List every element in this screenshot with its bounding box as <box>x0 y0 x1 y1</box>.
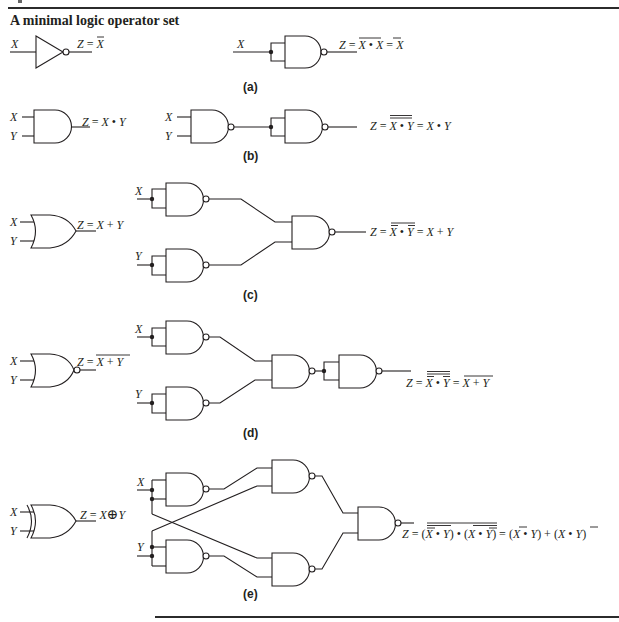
input-x-label: X <box>136 475 145 489</box>
xor-expression: Z = X⊕Y <box>80 507 127 522</box>
input-y-label: Y <box>165 129 173 143</box>
xor-gate: X Y Z = X⊕Y <box>9 505 127 538</box>
input-x-label: X <box>134 184 143 198</box>
nor-expression: Z = X + Y <box>77 355 125 369</box>
input-y-label: Y <box>135 249 143 263</box>
input-y-label: Y <box>10 373 18 387</box>
panel-a: X Z = X X Z = X • X = X <box>10 36 404 68</box>
input-x-label: X <box>164 110 173 124</box>
input-x-label: X <box>9 505 18 519</box>
and-expression: Z = X • Y <box>82 115 127 129</box>
not-expression: Z = X <box>77 37 104 51</box>
input-y-label: Y <box>135 387 143 401</box>
panel-e: X Y Z = X⊕Y X Y <box>9 460 598 586</box>
not-gate: X Z = X <box>10 36 104 68</box>
panel-d: X Y Z = X + Y X Y <box>9 321 493 420</box>
panel-b: X Y Z = X • Y X Y Z = X • Y = X • Y <box>9 110 452 143</box>
nand-nor-expression: Z = X • Y = X + Y <box>406 376 491 390</box>
nand-and-expression: Z = X • Y = X • Y <box>370 119 452 133</box>
input-x-label: X <box>9 354 18 368</box>
nand-xor-expression: Z = (X • Y) • (X • Y) = (X • Y) + (X • Y… <box>402 527 586 541</box>
input-y-label: Y <box>10 524 18 538</box>
logic-diagram: X Z = X X Z = X • X = X X Y Z = <box>0 0 619 622</box>
input-y-label: Y <box>10 129 18 143</box>
nor-gate: X Y Z = X + Y <box>9 354 130 387</box>
or-expression: Z = X + Y <box>77 218 125 232</box>
input-x-label: X <box>10 37 19 51</box>
input-x-label: X <box>9 110 18 124</box>
input-x-label: X <box>236 37 245 51</box>
nand-as-and: X Y Z = X • Y = X • Y <box>164 110 452 143</box>
or-gate: X Y Z = X + Y <box>9 215 125 248</box>
nand-as-nor: X Y Z = X • Y = X + Y <box>134 321 493 420</box>
input-y-label: Y <box>10 234 18 248</box>
nand-or-expression: Z = X • Y = X + Y <box>370 225 455 239</box>
nand-not-expression: Z = X • X = X <box>339 38 404 52</box>
input-y-label: Y <box>137 540 145 554</box>
input-x-label: X <box>134 322 143 336</box>
and-gate: X Y Z = X • Y <box>9 110 127 143</box>
nand-as-not: X Z = X • X = X <box>233 36 404 68</box>
panel-c: X Y Z = X + Y X Y Z <box>9 183 455 282</box>
nand-as-or: X Y Z = X • Y = X + Y <box>134 183 455 282</box>
input-x-label: X <box>9 215 18 229</box>
nand-as-xor: X Y <box>136 460 598 586</box>
